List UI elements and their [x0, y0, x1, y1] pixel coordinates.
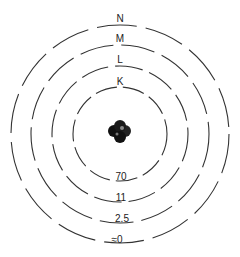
value-n: ≈0 — [111, 234, 122, 245]
label-k: K — [117, 76, 124, 87]
atom-shell-diagram: N M L K 70 11 2.5 ≈0 — [0, 0, 240, 257]
value-k: 70 — [115, 171, 127, 182]
nucleus-icon — [108, 120, 131, 143]
label-m: M — [116, 33, 124, 44]
label-l: L — [117, 54, 123, 65]
label-n: N — [116, 13, 123, 24]
value-l: 11 — [116, 192, 127, 203]
value-m: 2.5 — [115, 213, 129, 224]
